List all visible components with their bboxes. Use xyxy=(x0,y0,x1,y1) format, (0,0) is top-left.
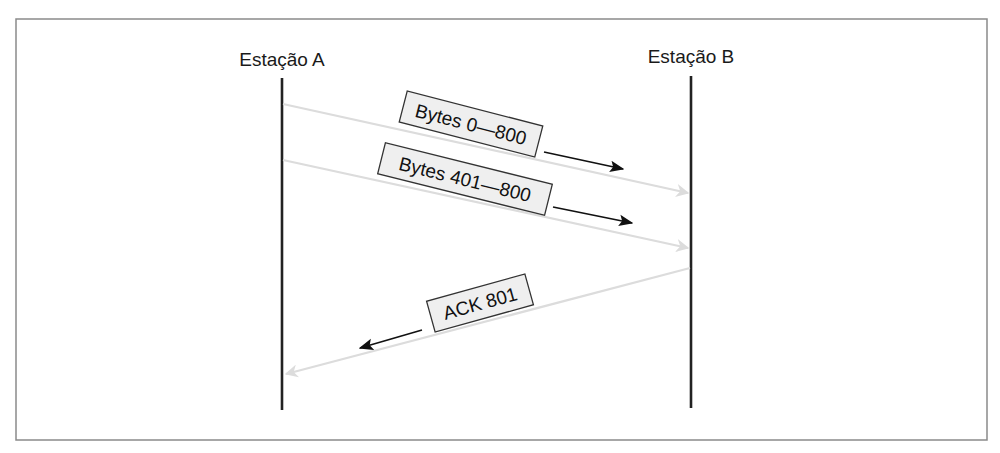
station-a-label: Estação A xyxy=(239,49,325,70)
diagram-frame xyxy=(16,19,987,440)
sequence-diagram: Estação A Estação B Bytes 0—800 Bytes 40… xyxy=(0,0,1000,453)
station-b-label: Estação B xyxy=(648,46,735,67)
